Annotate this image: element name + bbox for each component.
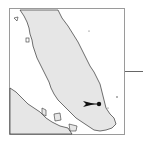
island <box>54 113 61 121</box>
leader-line <box>125 71 143 72</box>
locator-map <box>9 8 125 135</box>
location-marker <box>97 102 101 106</box>
